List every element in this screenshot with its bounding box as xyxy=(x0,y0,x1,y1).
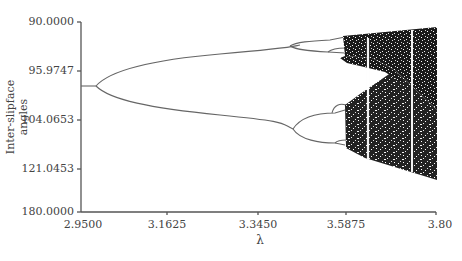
y-tick-label: 90.0000 xyxy=(4,16,74,28)
chaotic-region xyxy=(340,27,437,180)
x-tick-label: 2.9500 xyxy=(53,219,113,231)
y-tick-label: 180.0000 xyxy=(4,206,74,218)
x-tick-label: 3.5875 xyxy=(316,219,376,231)
x-tick-label: 3.3450 xyxy=(228,219,288,231)
bifurcation-branches xyxy=(81,37,346,145)
x-axis-title: λ xyxy=(250,233,270,247)
x-tick-label: 3.1625 xyxy=(137,219,197,231)
y-axis-title: Inter-slipface angles xyxy=(4,62,30,172)
x-tick-label: 3.80 xyxy=(410,219,462,231)
